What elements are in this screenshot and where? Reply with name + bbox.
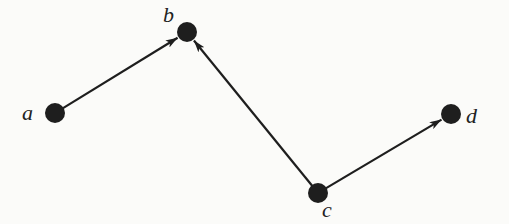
- edge-c-d: [325, 120, 442, 189]
- node-label-d: d: [466, 103, 477, 129]
- graph-svg: [0, 0, 509, 224]
- node-label-c: c: [322, 197, 332, 223]
- node-label-b: b: [163, 2, 174, 28]
- edges-group: [62, 38, 442, 189]
- graph-diagram: abcd: [0, 0, 509, 224]
- node-d: [441, 104, 461, 124]
- edge-c-b: [194, 41, 313, 187]
- node-a: [45, 103, 65, 123]
- node-label-a: a: [22, 100, 33, 126]
- edge-a-b: [62, 38, 178, 109]
- node-b: [177, 22, 197, 42]
